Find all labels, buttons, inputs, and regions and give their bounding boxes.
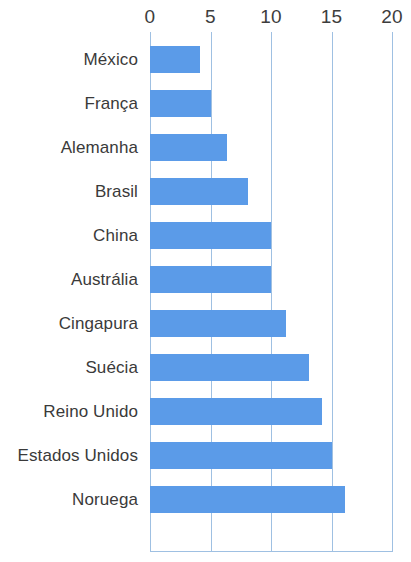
bar-row: Cingapura — [0, 310, 411, 337]
bar-row: Noruega — [0, 486, 411, 513]
bar-row: Brasil — [0, 178, 411, 205]
bar-row: Austrália — [0, 266, 411, 293]
x-tick-label-0: 0 — [145, 4, 156, 30]
category-label-estados-unidos: Estados Unidos — [0, 442, 138, 469]
bar-austrália — [150, 266, 271, 293]
bar-row: Alemanha — [0, 134, 411, 161]
category-label-cingapura: Cingapura — [0, 310, 138, 337]
bar-row: México — [0, 46, 411, 73]
bar-méxico — [150, 46, 200, 73]
bar-china — [150, 222, 271, 249]
bar-estados-unidos — [150, 442, 332, 469]
x-axis-line — [150, 551, 393, 552]
bar-row: França — [0, 90, 411, 117]
category-label-frança: França — [0, 90, 138, 117]
category-label-china: China — [0, 222, 138, 249]
bar-brasil — [150, 178, 248, 205]
x-tick-label-10: 10 — [260, 4, 282, 30]
bar-alemanha — [150, 134, 227, 161]
category-label-brasil: Brasil — [0, 178, 138, 205]
category-label-reino-unido: Reino Unido — [0, 398, 138, 425]
bar-row: Estados Unidos — [0, 442, 411, 469]
bar-cingapura — [150, 310, 286, 337]
x-tick-label-5: 5 — [205, 4, 216, 30]
bar-frança — [150, 90, 211, 117]
category-label-austrália: Austrália — [0, 266, 138, 293]
category-label-suécia: Suécia — [0, 354, 138, 381]
x-tick-label-15: 15 — [321, 4, 343, 30]
category-label-noruega: Noruega — [0, 486, 138, 513]
category-label-alemanha: Alemanha — [0, 134, 138, 161]
bar-reino-unido — [150, 398, 322, 425]
bar-row: Reino Unido — [0, 398, 411, 425]
bar-row: China — [0, 222, 411, 249]
bar-noruega — [150, 486, 345, 513]
bar-row: Suécia — [0, 354, 411, 381]
category-label-méxico: México — [0, 46, 138, 73]
x-tick-label-20: 20 — [381, 4, 403, 30]
bar-suécia — [150, 354, 309, 381]
bar-chart: 05101520 MéxicoFrançaAlemanhaBrasilChina… — [0, 0, 411, 562]
